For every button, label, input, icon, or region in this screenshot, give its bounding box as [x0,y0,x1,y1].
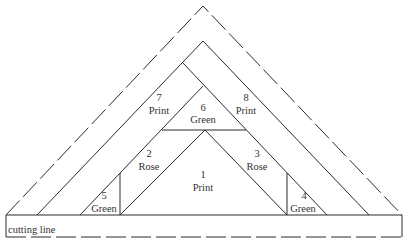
piece-7-fabric: Print [149,105,170,116]
diagram-svg: cutting line 1 Print 2 Rose 3 Rose 4 Gre… [0,0,406,243]
piece-1-fabric: Print [193,182,214,193]
piece-8-fabric: Print [236,105,257,116]
piece-5-number: 5 [101,190,106,201]
quilt-diagram: cutting line 1 Print 2 Rose 3 Rose 4 Gre… [0,0,406,243]
piece-4-fabric: Green [290,203,316,214]
piece-8-number: 8 [243,92,248,103]
piece-3-fabric: Rose [247,161,268,172]
piece-5-fabric: Green [91,203,117,214]
piece-3-number: 3 [254,148,259,159]
cutting-line-label: cutting line [8,224,56,235]
piece-2-fabric: Rose [139,161,160,172]
piece-4-number: 4 [301,190,307,201]
piece-2-number: 2 [146,148,151,159]
piece-1-number: 1 [200,169,205,180]
piece-7-number: 7 [156,92,161,103]
piece-6-number: 6 [200,102,205,113]
piece-6-fabric: Green [190,114,216,125]
